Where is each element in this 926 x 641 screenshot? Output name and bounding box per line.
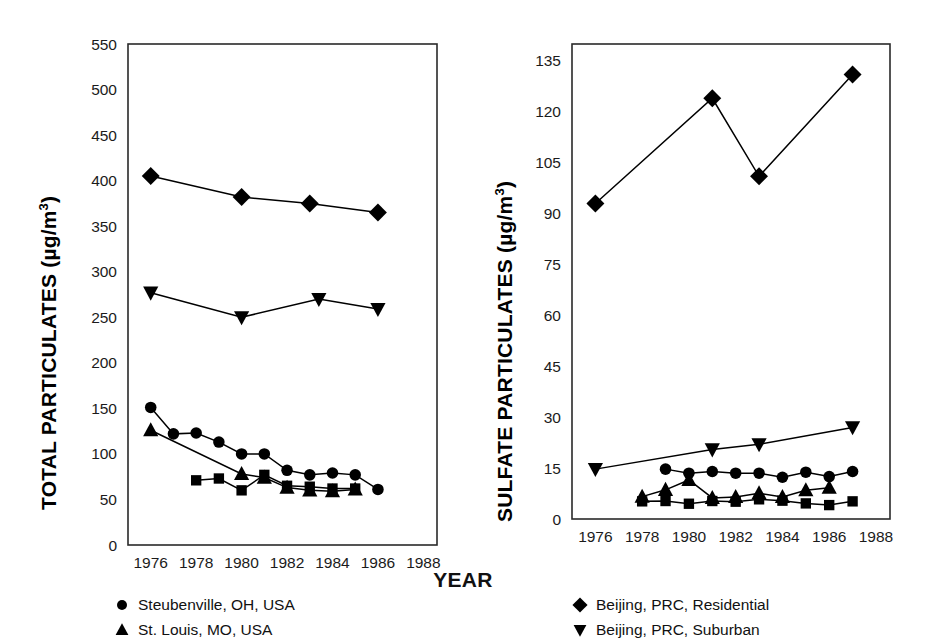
data-point-circle <box>190 427 202 439</box>
legend-label: Steubenville, OH, USA <box>138 596 295 614</box>
data-point-diamond <box>369 204 387 222</box>
y-tick-label: 300 <box>91 263 117 280</box>
y-tick-label: 0 <box>552 511 561 528</box>
data-point-square <box>327 483 337 493</box>
series-line <box>642 499 852 505</box>
data-point-circle <box>800 466 812 478</box>
data-point-circle <box>660 463 672 475</box>
series-diamond <box>142 167 387 221</box>
y-tick-label: 0 <box>108 537 117 554</box>
data-point-square <box>660 496 670 506</box>
data-point-circle <box>236 448 248 460</box>
legend-item: Beijing, PRC, Suburban <box>570 617 769 641</box>
data-point-triangle-up <box>822 480 837 494</box>
x-tick-label: 1988 <box>859 528 893 545</box>
data-point-square <box>259 470 269 480</box>
circle-icon <box>117 600 127 610</box>
series-line <box>595 427 852 469</box>
data-point-circle <box>753 467 765 479</box>
legend-label: Beijing, PRC, Residential <box>596 596 769 614</box>
x-tick-label: 1978 <box>625 528 659 545</box>
triangle-down-icon <box>574 624 587 636</box>
series-triangle-down <box>588 421 860 477</box>
x-tick-label: 1980 <box>672 528 707 545</box>
data-point-circle <box>259 448 271 460</box>
series-line <box>151 293 378 318</box>
data-point-square <box>214 473 224 483</box>
legend-right: Beijing, PRC, ResidentialBeijing, PRC, S… <box>570 592 769 641</box>
data-point-circle <box>281 465 293 477</box>
data-point-square <box>707 496 717 506</box>
data-point-square <box>777 495 787 505</box>
data-point-square <box>730 497 740 507</box>
series-triangle-down <box>143 287 385 326</box>
data-point-square <box>305 482 315 492</box>
data-point-triangle-down <box>370 303 385 317</box>
y-tick-label: 90 <box>544 205 562 222</box>
data-point-square <box>191 475 201 485</box>
series-line <box>151 176 378 212</box>
legend-label: St. Louis, MO, USA <box>138 621 272 639</box>
y-tick-label: 120 <box>535 103 561 120</box>
y-tick-label: 250 <box>91 309 117 326</box>
data-point-triangle-up <box>234 466 249 480</box>
data-point-circle <box>707 466 719 478</box>
x-tick-label: 1984 <box>765 528 800 545</box>
y-tick-label: 75 <box>544 256 561 273</box>
chart-panel-sulfate-particulates: SULFATE PARTICULATES (µg/m3) 01530456075… <box>456 0 926 641</box>
y-tick-label: 45 <box>544 358 561 375</box>
y-tick-label: 100 <box>91 445 117 462</box>
legend-item: Beijing, PRC, Residential <box>570 592 769 617</box>
x-axis-title: YEAR <box>0 568 926 592</box>
data-point-triangle-down <box>234 311 249 325</box>
data-point-circle <box>777 471 789 483</box>
data-point-square <box>350 483 360 493</box>
legend-marker-circle <box>112 596 132 614</box>
data-point-square <box>282 481 292 491</box>
data-point-square <box>684 499 694 509</box>
series-diamond <box>586 66 861 213</box>
x-tick-label: 1986 <box>812 528 846 545</box>
series-square <box>637 494 858 510</box>
data-point-circle <box>372 484 384 496</box>
legend-item: St. Louis, MO, USA <box>112 617 295 641</box>
legend-marker-diamond <box>570 596 590 614</box>
data-point-circle <box>168 428 180 440</box>
data-point-triangle-up <box>658 482 673 496</box>
y-tick-label: 150 <box>91 400 117 417</box>
triangle-up-icon <box>116 623 129 635</box>
series-line <box>595 75 852 204</box>
data-point-circle <box>847 466 859 478</box>
y-tick-label: 500 <box>91 81 117 98</box>
data-point-square <box>754 494 764 504</box>
legend-marker-triangle-down <box>570 621 590 639</box>
y-tick-label: 50 <box>100 491 118 508</box>
data-point-diamond <box>142 167 160 185</box>
data-point-square <box>801 498 811 508</box>
chart-panel-total-particulates: TOTAL PARTICULATES (µg/m3) 0501001502002… <box>0 0 470 641</box>
legend-item: Steubenville, OH, USA <box>112 592 295 617</box>
data-point-circle <box>349 469 361 481</box>
y-tick-label: 200 <box>91 354 117 371</box>
plot-area-right: 0153045607590105120135197619781980198219… <box>456 0 926 570</box>
data-point-square <box>637 496 647 506</box>
plot-area-left: 0501001502002503003504004505005501976197… <box>0 0 470 570</box>
legend-label: Beijing, PRC, Suburban <box>596 621 760 639</box>
data-point-square <box>847 496 857 506</box>
legend-marker-triangle-up <box>112 621 132 639</box>
data-point-circle <box>145 402 157 414</box>
data-point-diamond <box>233 188 251 206</box>
data-point-circle <box>213 436 225 448</box>
y-tick-label: 350 <box>91 218 117 235</box>
y-tick-label: 450 <box>91 127 117 144</box>
data-point-circle <box>327 467 339 479</box>
y-tick-label: 105 <box>535 154 561 171</box>
data-point-triangle-up <box>143 422 158 436</box>
data-point-diamond <box>301 194 319 212</box>
legend-left: Steubenville, OH, USASt. Louis, MO, USA <box>112 592 295 641</box>
y-tick-label: 135 <box>535 52 561 69</box>
x-tick-label: 1976 <box>578 528 612 545</box>
data-point-square <box>824 500 834 510</box>
data-point-square <box>236 485 246 495</box>
data-point-circle <box>730 467 742 479</box>
